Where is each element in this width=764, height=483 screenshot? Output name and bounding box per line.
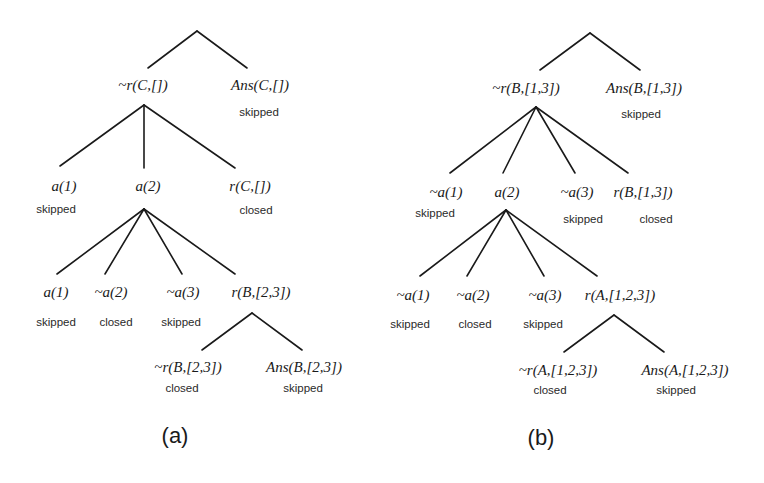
node-term: ~r(B,[2,3]) <box>154 359 221 376</box>
node-term: Ans(A,[1,2,3]) <box>641 362 728 379</box>
node-status: closed <box>458 318 491 330</box>
node-term: Ans(B,[2,3]) <box>266 359 342 376</box>
tree-edges <box>0 0 764 483</box>
node-status: closed <box>533 384 566 396</box>
node-term: ~r(A,[1,2,3]) <box>519 362 598 379</box>
node-term: ~r(C,[]) <box>118 77 167 94</box>
node-status: closed <box>165 382 198 394</box>
node-status: skipped <box>36 316 76 328</box>
node-term: a(1) <box>52 178 77 195</box>
node-status: skipped <box>390 318 430 330</box>
node-status: closed <box>239 204 272 216</box>
node-status: closed <box>99 316 132 328</box>
node-term: ~a(3) <box>528 287 561 304</box>
node-term: r(A,[1,2,3]) <box>585 287 655 304</box>
node-term: a(2) <box>136 178 161 195</box>
node-term: Ans(B,[1,3]) <box>606 80 682 97</box>
caption-b: (b) <box>528 425 555 451</box>
node-term: ~a(1) <box>429 184 462 201</box>
node-status: skipped <box>415 207 455 219</box>
node-term: a(1) <box>44 284 69 301</box>
node-term: r(B,[1,3]) <box>613 184 672 201</box>
node-status: skipped <box>523 318 563 330</box>
node-status: skipped <box>161 316 201 328</box>
node-status: skipped <box>656 384 696 396</box>
node-term: Ans(C,[]) <box>231 77 289 94</box>
node-term: ~a(2) <box>94 284 127 301</box>
node-status: skipped <box>563 213 603 225</box>
node-term: r(B,[2,3]) <box>231 284 290 301</box>
node-status: skipped <box>621 108 661 120</box>
caption-a: (a) <box>162 423 189 449</box>
node-term: ~a(3) <box>166 284 199 301</box>
node-term: ~a(3) <box>560 184 593 201</box>
node-status: skipped <box>36 203 76 215</box>
node-term: ~r(B,[1,3]) <box>492 80 559 97</box>
node-term: a(2) <box>495 184 520 201</box>
node-term: r(C,[]) <box>229 178 270 195</box>
node-status: closed <box>639 213 672 225</box>
node-term: ~a(1) <box>396 287 429 304</box>
node-status: skipped <box>283 382 323 394</box>
node-status: skipped <box>239 106 279 118</box>
diagram-canvas: ~r(C,[]) Ans(C,[]) skipped a(1) skipped … <box>0 0 764 483</box>
node-term: ~a(2) <box>456 287 489 304</box>
